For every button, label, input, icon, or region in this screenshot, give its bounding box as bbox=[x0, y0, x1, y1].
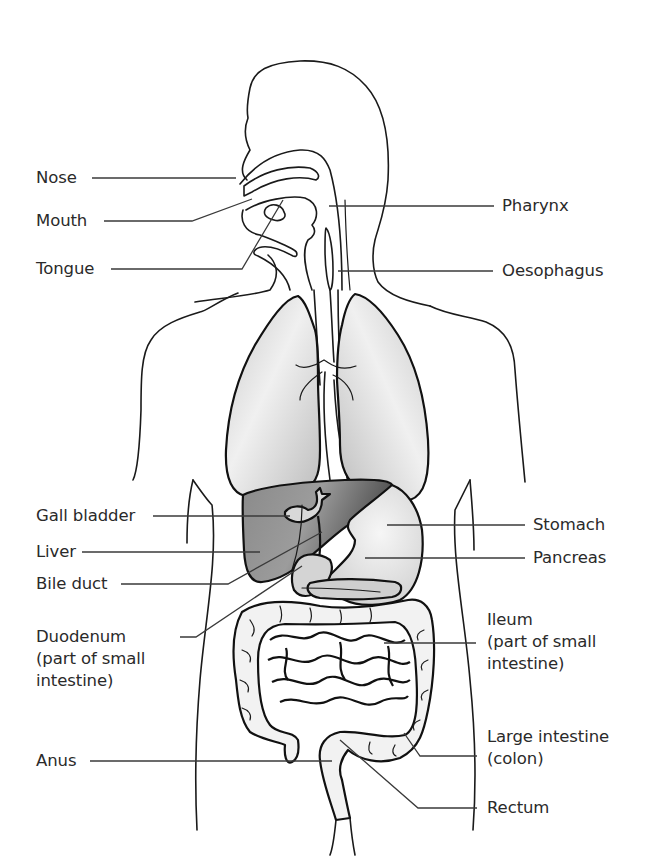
label-duodenum-sub1: (part of small bbox=[36, 648, 145, 670]
label-ileum-sub1: (part of small bbox=[487, 631, 596, 653]
label-mouth: Mouth bbox=[36, 210, 87, 232]
label-duodenum: Duodenum bbox=[36, 626, 126, 648]
label-oesophagus: Oesophagus bbox=[502, 260, 603, 282]
digestive-system-diagram: Nose Mouth Tongue Gall bladder Liver Bil… bbox=[0, 0, 650, 861]
label-pharynx: Pharynx bbox=[502, 195, 569, 217]
label-bile-duct: Bile duct bbox=[36, 573, 107, 595]
label-large-intestine: Large intestine bbox=[487, 726, 609, 748]
label-duodenum-sub2: intestine) bbox=[36, 670, 113, 692]
label-large-intestine-sub1: (colon) bbox=[487, 748, 543, 770]
label-ileum-sub2: intestine) bbox=[487, 653, 564, 675]
label-rectum: Rectum bbox=[487, 797, 549, 819]
label-pancreas: Pancreas bbox=[533, 547, 606, 569]
label-ileum: Ileum bbox=[487, 609, 533, 631]
large-intestine bbox=[234, 600, 435, 855]
lungs bbox=[226, 294, 429, 501]
label-liver: Liver bbox=[36, 541, 76, 563]
label-tongue: Tongue bbox=[36, 258, 94, 280]
label-nose: Nose bbox=[36, 167, 77, 189]
label-gall-bladder: Gall bladder bbox=[36, 505, 135, 527]
label-stomach: Stomach bbox=[533, 514, 605, 536]
label-anus: Anus bbox=[36, 750, 76, 772]
head-internal bbox=[240, 150, 350, 290]
body-outline bbox=[133, 61, 525, 830]
